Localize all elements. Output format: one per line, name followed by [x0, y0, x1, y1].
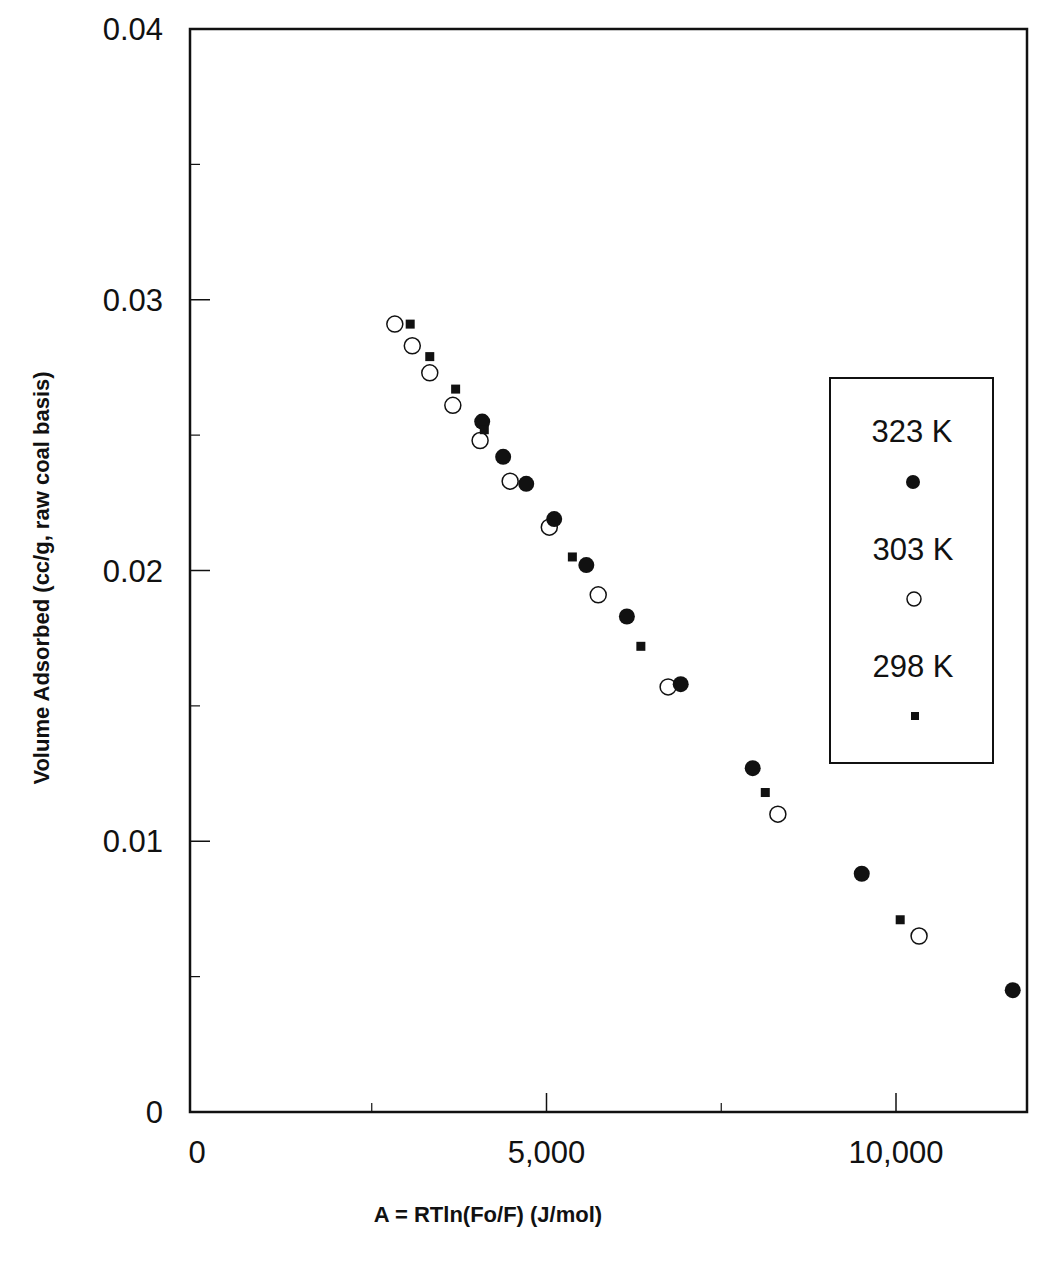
- data-point-filled-square: [425, 352, 434, 361]
- y-tick-label: 0.02: [103, 554, 163, 589]
- legend-marker-filled-square-icon: [911, 712, 919, 720]
- legend-label-323k: 323 K: [871, 414, 952, 449]
- data-point-filled-circle: [495, 449, 511, 465]
- y-axis-title: Volume Adsorbed (cc/g, raw coal basis): [29, 371, 54, 784]
- data-point-filled-square: [636, 642, 645, 651]
- data-point-filled-circle: [578, 557, 594, 573]
- data-point-filled-circle: [1005, 982, 1021, 998]
- scatter-chart: 05,00010,000 00.010.020.030.04 323 K 303…: [0, 0, 1050, 1269]
- data-point-filled-square: [451, 385, 460, 394]
- data-point-filled-circle: [745, 760, 761, 776]
- x-tick-label: 5,000: [508, 1135, 586, 1170]
- legend-label-303k: 303 K: [872, 532, 953, 567]
- y-tick-label: 0: [146, 1095, 163, 1130]
- data-point-filled-circle: [854, 866, 870, 882]
- legend-marker-open-circle-icon: [907, 592, 921, 606]
- legend: 323 K 303 K 298 K: [830, 378, 993, 763]
- x-tick-label: 10,000: [849, 1135, 944, 1170]
- legend-label-298k: 298 K: [872, 649, 953, 684]
- data-point-filled-circle: [619, 609, 635, 625]
- data-point-filled-square: [896, 915, 905, 924]
- data-point-filled-square: [406, 320, 415, 329]
- x-axis-title: A = RTln(Fo/F) (J/mol): [374, 1202, 602, 1227]
- data-point-filled-square: [480, 425, 489, 434]
- legend-marker-filled-circle-icon: [906, 475, 920, 489]
- x-tick-label: 0: [188, 1135, 205, 1170]
- data-point-filled-square: [761, 788, 770, 797]
- y-tick-label: 0.04: [103, 12, 163, 47]
- y-tick-label: 0.01: [103, 824, 163, 859]
- data-point-filled-circle: [518, 476, 534, 492]
- y-tick-label: 0.03: [103, 283, 163, 318]
- data-point-filled-square: [568, 552, 577, 561]
